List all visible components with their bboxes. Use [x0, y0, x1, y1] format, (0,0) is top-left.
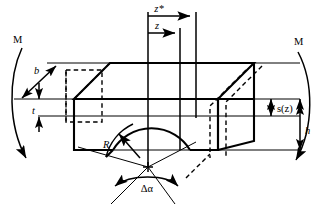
notched-beam-diagram: z* z M M b t R [0, 0, 322, 208]
reference-lines [14, 63, 300, 150]
radial-line-right-upper [148, 142, 196, 167]
dimension-s-z: s(z) [271, 99, 300, 116]
label-moment-right: M [294, 36, 304, 47]
beam-body [66, 63, 262, 178]
label-z: z [154, 20, 159, 31]
label-R: R [102, 139, 110, 150]
label-b: b [34, 65, 39, 76]
label-delta-alpha: Δα [141, 183, 154, 194]
label-z-star: z* [153, 3, 164, 14]
dimension-z: z [148, 20, 175, 33]
label-t: t [32, 105, 36, 116]
beam-front-right-edge [190, 99, 218, 150]
label-moment-left: M [13, 34, 23, 45]
dimension-h: h [300, 104, 310, 150]
notch-arc-front [113, 128, 190, 150]
label-s-z: s(z) [277, 103, 293, 115]
beam-right-end-face [218, 63, 254, 150]
beam-top-face [74, 63, 254, 99]
dimension-t: t [32, 83, 39, 132]
beam-right-hidden-edge-c [186, 154, 210, 178]
figure-canvas: z* z M M b t R [0, 0, 322, 208]
dimension-z-star: z* [148, 3, 190, 16]
angle-group: Δα [78, 142, 196, 204]
moment-right-group: M [294, 36, 310, 160]
curved-moment-arrow-icon-right [296, 52, 310, 160]
leader-arrow-icon-R [119, 134, 140, 158]
beam-left-hidden-edge [74, 63, 110, 150]
curved-moment-arrow-icon-left [12, 48, 26, 158]
label-h: h [305, 125, 310, 136]
